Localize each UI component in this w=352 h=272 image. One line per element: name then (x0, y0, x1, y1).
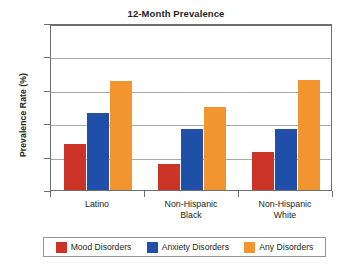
legend-label: Anxiety Disorders (162, 242, 229, 252)
legend-swatch-icon (56, 242, 67, 253)
bar[interactable] (158, 164, 180, 190)
x-axis-tick-mark (144, 191, 145, 197)
legend-label: Any Disorders (259, 242, 313, 252)
x-axis-category-label-line: White (230, 210, 340, 221)
bar[interactable] (87, 113, 109, 190)
legend-swatch-icon (244, 242, 255, 253)
legend-item[interactable]: Anxiety Disorders (147, 242, 229, 253)
legend-item[interactable]: Mood Disorders (56, 242, 132, 253)
bar[interactable] (110, 81, 132, 190)
y-axis-title: Prevalence Rate (%) (18, 45, 28, 185)
x-axis-tick-mark (238, 191, 239, 197)
bar[interactable] (298, 80, 320, 190)
x-axis-tick-mark (50, 191, 51, 197)
bar[interactable] (64, 144, 86, 190)
bar[interactable] (204, 107, 226, 190)
bar-chart-figure: 12-Month Prevalence Prevalence Rate (%) … (0, 0, 352, 272)
x-axis-category-label: Non-HispanicWhite (230, 199, 340, 221)
chart-legend: Mood DisordersAnxiety DisordersAny Disor… (43, 237, 326, 257)
legend-label: Mood Disorders (71, 242, 132, 252)
x-axis-tick-mark (332, 191, 333, 197)
legend-item[interactable]: Any Disorders (244, 242, 313, 253)
bar[interactable] (181, 129, 203, 190)
x-axis-category-label-line: Non-Hispanic (230, 199, 340, 210)
bar-group (252, 25, 320, 190)
bar[interactable] (252, 152, 274, 190)
legend-swatch-icon (147, 242, 158, 253)
bar-group (64, 25, 132, 190)
bar[interactable] (275, 129, 297, 190)
plot-area (50, 24, 332, 191)
bar-group (158, 25, 226, 190)
chart-title: 12-Month Prevalence (0, 8, 352, 19)
